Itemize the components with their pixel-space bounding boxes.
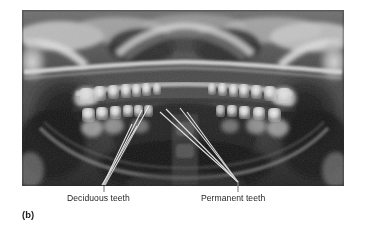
annotation-label-deciduous-teeth: Deciduous teeth	[67, 193, 130, 203]
annotation-label-permanent-teeth: Permanent teeth	[201, 193, 265, 203]
figure-panel-caption: (b)	[22, 209, 34, 220]
figure-panel-b: Deciduous teeth Permanent teeth (b)	[0, 0, 365, 227]
radiograph-canvas	[22, 10, 344, 186]
panoramic-radiograph-image	[22, 10, 344, 186]
film-grain-overlay	[22, 10, 344, 186]
